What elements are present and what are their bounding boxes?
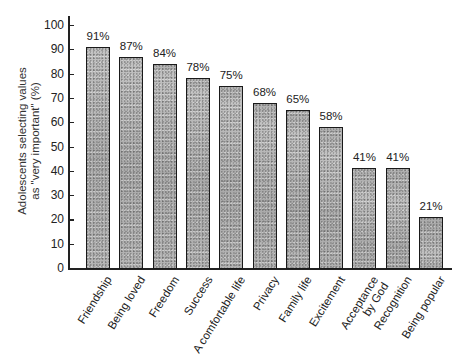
bar-family-life [286, 110, 310, 269]
bar-success [186, 78, 210, 269]
y-tick [68, 49, 74, 50]
bar-being-loved [119, 57, 143, 269]
category-label: Success [181, 274, 214, 317]
y-tick [68, 195, 74, 196]
value-label: 58% [311, 110, 351, 122]
y-tick [68, 219, 74, 220]
y-tick [68, 74, 74, 75]
category-label: Family life [276, 274, 314, 324]
value-label: 84% [145, 47, 185, 59]
y-tick-label: 30 [34, 188, 64, 202]
bar-being-popular [419, 217, 443, 269]
bar-acceptance-by-god [352, 168, 376, 269]
category-label-line: Success [181, 274, 214, 317]
y-tick [68, 268, 74, 269]
y-tick [68, 244, 74, 245]
value-label: 21% [411, 200, 451, 212]
y-tick-label: 20 [34, 212, 64, 226]
y-tick-label: 100 [34, 18, 64, 32]
value-label: 75% [211, 69, 251, 81]
value-label: 65% [278, 93, 318, 105]
y-axis-line [68, 16, 70, 269]
category-label-line: Family life [276, 274, 314, 324]
y-tick-label: 0 [34, 261, 64, 275]
bar-friendship [86, 47, 110, 269]
y-tick-label: 80 [34, 67, 64, 81]
bar-chart: Adolescents selecting values as "very im… [0, 0, 465, 359]
value-label: 41% [378, 151, 418, 163]
y-tick [68, 171, 74, 172]
category-label: Freedom [146, 274, 181, 319]
category-label: Privacy [250, 274, 280, 312]
bar-recognition [386, 168, 410, 269]
y-tick-label: 70 [34, 91, 64, 105]
category-label-line: Privacy [250, 274, 280, 312]
y-tick [68, 98, 74, 99]
bar-excitement [319, 127, 343, 269]
bar-privacy [253, 103, 277, 269]
y-tick-label: 10 [34, 237, 64, 251]
y-tick [68, 25, 74, 26]
y-tick-label: 50 [34, 140, 64, 154]
y-tick [68, 122, 74, 123]
y-axis-label-line-1: Adolescents selecting values [16, 67, 29, 215]
bar-freedom [153, 64, 177, 269]
y-tick-label: 40 [34, 164, 64, 178]
y-tick-label: 90 [34, 42, 64, 56]
category-label-line: Freedom [146, 274, 181, 319]
y-tick-label: 60 [34, 115, 64, 129]
y-tick [68, 147, 74, 148]
bar-a-comfortable-life [219, 86, 243, 269]
